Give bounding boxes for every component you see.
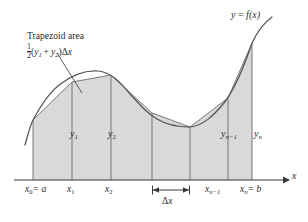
ordinate-label-yn-1: yn−1: [221, 128, 237, 140]
function-label: y = f(x): [231, 9, 260, 20]
formula-delta-x: x: [68, 46, 72, 57]
x-axis-arrowhead: [283, 176, 290, 183]
trapezoid-area-text: Trapezoid area: [27, 28, 84, 43]
ordinate-label-y2-subscript: 2: [112, 133, 115, 140]
abscissa-label-xn-equals: = b: [248, 183, 262, 194]
delta-x-label: Δx: [162, 195, 172, 206]
abscissa-label-xn-1: xn−1: [205, 183, 220, 195]
ordinate-label-yn-subscript: n: [258, 133, 261, 140]
shaded-trapezoid-region: [33, 43, 252, 180]
abscissa-label-x0-equals: = a: [33, 183, 47, 194]
trapezoidal-rule-figure: Trapezoid area 1 2 (y1 + y2)Δx y = f(x) …: [0, 0, 308, 222]
x-axis-label: x: [292, 170, 296, 181]
delta-x-label-x: x: [168, 195, 172, 206]
ordinate-label-yn: yn: [254, 128, 262, 140]
ordinate-label-yn-1-subscript: n−1: [225, 133, 236, 140]
abscissa-label-xn: xn= b: [240, 183, 261, 195]
function-label-y: y: [231, 9, 235, 20]
abscissa-label-x1: x1: [67, 183, 75, 195]
function-label-equals: =: [238, 9, 244, 20]
abscissa-label-x2: x2: [105, 183, 113, 195]
ordinate-label-y1-subscript: 1: [74, 133, 77, 140]
abscissa-label-x2-subscript: 2: [109, 188, 112, 195]
abscissa-label-xn-1-subscript: n−1: [209, 188, 220, 195]
ordinate-label-y1: y1: [70, 128, 78, 140]
abscissa-label-x0: x0= a: [25, 183, 46, 195]
abscissa-label-x1-subscript: 1: [71, 188, 74, 195]
trapezoid-area-formula: 1 2 (y1 + y2)Δx: [27, 43, 84, 62]
delta-x-arrowhead-left: [153, 187, 159, 193]
ordinate-label-y2: y2: [108, 128, 116, 140]
trapezoid-area-callout: Trapezoid area 1 2 (y1 + y2)Δx: [27, 28, 84, 62]
function-label-argument: (x): [249, 9, 260, 20]
delta-x-arrowhead-right: [183, 187, 189, 193]
